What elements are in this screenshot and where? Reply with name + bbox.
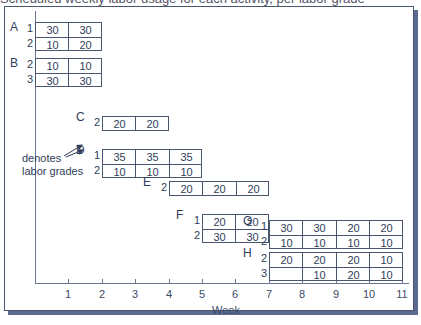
annotation-arrows-icon [0,0,421,325]
